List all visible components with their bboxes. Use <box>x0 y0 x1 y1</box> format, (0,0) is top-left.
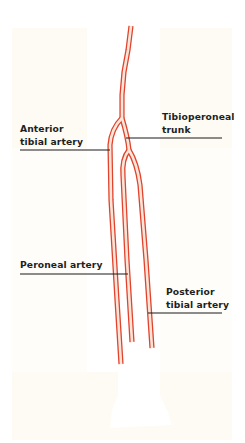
leg-artery-diagram <box>0 0 245 443</box>
label-anterior-tibial-artery: Anterior tibial artery <box>20 122 83 148</box>
label-anterior-tibial-line1: Anterior <box>20 122 83 135</box>
label-peroneal-artery: Peroneal artery <box>20 258 103 271</box>
label-tibioperoneal-line1: Tibioperoneal <box>162 110 235 123</box>
label-tibioperoneal-trunk: Tibioperoneal trunk <box>162 110 235 136</box>
label-peroneal-line1: Peroneal artery <box>20 258 103 271</box>
label-tibioperoneal-line2: trunk <box>162 123 235 136</box>
label-anterior-tibial-line2: tibial artery <box>20 135 83 148</box>
label-posterior-tibial-line2: tibial artery <box>166 298 229 311</box>
label-posterior-tibial-artery: Posterior tibial artery <box>166 285 229 311</box>
panel-mid-right <box>160 148 232 372</box>
label-posterior-tibial-line1: Posterior <box>166 285 229 298</box>
